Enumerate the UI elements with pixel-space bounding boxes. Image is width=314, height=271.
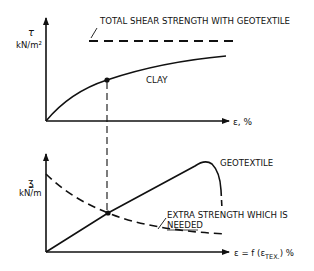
- geotextile-intersection-point: [105, 210, 110, 215]
- clay-label: CLAY: [146, 75, 168, 85]
- top-y-unit: kN/m²: [16, 40, 42, 50]
- geotextile-failure-dashed: [221, 190, 222, 209]
- total-strength-label: TOTAL SHEAR STRENGTH WITH GEOTEXTILE: [99, 16, 290, 26]
- total-strength-leader: [91, 28, 97, 38]
- clay-curve: [46, 56, 226, 121]
- extra-strength-label-line2: NEEDED: [167, 220, 203, 230]
- bottom-y-symbol: ʓ: [28, 177, 34, 188]
- bottom-panel: ʓ kN/m ε = f (εTEX.) % GEOTEXTILE EXTRA …: [19, 154, 294, 261]
- clay-intersection-point: [104, 77, 109, 82]
- top-panel: τ kN/m² ε, % TOTAL SHEAR STRENGTH WITH G…: [16, 16, 290, 127]
- extra-strength-label-line1: EXTRA STRENGTH WHICH IS: [167, 210, 288, 220]
- diagram-canvas: τ kN/m² ε, % TOTAL SHEAR STRENGTH WITH G…: [0, 0, 314, 271]
- top-y-symbol: τ: [28, 27, 35, 38]
- bottom-y-unit: kN/m: [19, 188, 41, 198]
- geotextile-label: GEOTEXTILE: [220, 158, 273, 168]
- geotextile-strength-diagram: τ kN/m² ε, % TOTAL SHEAR STRENGTH WITH G…: [0, 0, 314, 271]
- top-x-label: ε, %: [233, 117, 253, 127]
- bottom-x-label-main: ε = f (ε: [234, 248, 265, 258]
- geotextile-curve: [46, 162, 221, 252]
- bottom-x-label-end: ) %: [280, 248, 294, 258]
- bottom-x-label: ε = f (εTEX.) %: [234, 248, 294, 261]
- bottom-x-label-sub: TEX.: [264, 253, 280, 261]
